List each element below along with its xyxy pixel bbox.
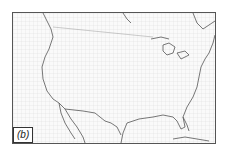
- map-svg: [13, 13, 215, 143]
- panel-label: (b): [13, 127, 33, 143]
- map-frame: (b): [12, 12, 216, 144]
